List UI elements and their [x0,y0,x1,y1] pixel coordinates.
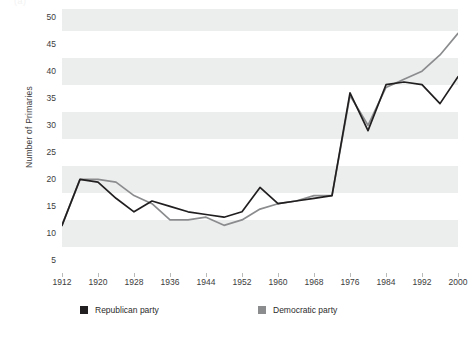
x-axis-tick: 1976 [341,277,360,287]
x-axis-tick-mark [278,273,279,277]
y-axis-tick: 25 [10,147,56,157]
legend-item-republican[interactable]: Republican party [80,305,159,315]
y-axis-tick-labels: 5045403530252015105 [8,9,56,274]
legend-label-democratic: Democratic party [273,305,337,315]
x-axis-tick-mark [422,273,423,277]
x-axis-tick-mark [134,273,135,277]
series-line-democratic-party [62,33,458,225]
x-axis-tick: 1920 [89,277,108,287]
y-axis-tick: 50 [10,12,56,22]
x-axis-tick: 1928 [125,277,144,287]
x-axis-tick: 1968 [305,277,324,287]
chart-legend: Republican party Democratic party [62,305,458,323]
y-axis-tick: 20 [10,174,56,184]
x-axis-tick: 1960 [269,277,288,287]
x-axis-tick-mark [314,273,315,277]
primaries-line-chart-figure: (a) Number of Primaries 5045403530252015… [0,0,471,351]
x-axis-tick-mark [206,273,207,277]
y-axis-tick: 45 [10,39,56,49]
x-axis-tick-mark [386,273,387,277]
x-axis-tick: 1936 [161,277,180,287]
x-axis-tick-mark [242,273,243,277]
y-axis-tick: 10 [10,228,56,238]
legend-swatch-republican [80,306,88,314]
x-axis-tick: 1944 [197,277,216,287]
x-axis-tick: 1984 [377,277,396,287]
y-axis-tick: 35 [10,93,56,103]
x-axis-tick-labels: 1912192019281936194419521960196819761984… [62,277,458,293]
plot-area [62,9,458,274]
y-axis-tick: 5 [10,255,56,265]
x-axis-tick-mark [458,273,459,277]
x-axis-tick: 2000 [449,277,468,287]
legend-label-republican: Republican party [95,305,159,315]
y-axis-tick: 15 [10,201,56,211]
legend-item-democratic[interactable]: Democratic party [258,305,337,315]
x-axis-tick: 1992 [413,277,432,287]
series-lines [62,9,458,274]
x-axis-tick-mark [350,273,351,277]
x-axis-tick-mark [98,273,99,277]
y-axis-tick: 40 [10,66,56,76]
x-axis-tick-mark [62,273,63,277]
x-axis-tick: 1952 [233,277,252,287]
x-axis-tick-mark [170,273,171,277]
y-axis-tick: 30 [10,120,56,130]
series-line-republican-party [62,77,458,226]
legend-swatch-democratic [258,306,266,314]
x-axis-tick: 1912 [53,277,72,287]
clipped-caption-sliver: (a) [14,0,27,6]
